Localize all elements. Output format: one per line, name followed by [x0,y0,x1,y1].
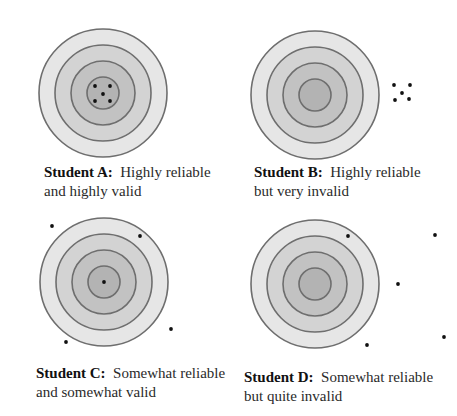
shot-dot [50,224,54,228]
shot-dot [433,233,437,237]
caption-student-a: Student A: Highly reliable and highly va… [44,163,211,201]
caption-label: Student A: [44,164,113,180]
shot-dot [365,343,369,347]
shot-dot [102,280,106,284]
shot-dot [64,340,68,344]
shot-dot [138,234,142,238]
shot-dot [393,98,397,102]
shot-dot [108,99,112,103]
caption-label: Student C: [36,365,106,381]
shot-dot [101,92,105,96]
shot-dot [392,83,396,87]
shot-dot [108,84,112,88]
shot-dot [346,234,350,238]
caption-student-b: Student B: Highly reliable but very inva… [254,163,421,201]
shot-dot [93,99,97,103]
caption-line1: Highly reliable [120,164,210,180]
shot-dot [93,84,97,88]
caption-line2: but very invalid [254,183,349,199]
caption-line1: Highly reliable [330,164,420,180]
target-b [251,31,412,159]
shot-dot [396,282,400,286]
caption-student-d: Student D: Somewhat reliable but quite i… [244,368,433,406]
caption-line1: Somewhat reliable [321,369,433,385]
target-a [39,29,167,157]
shot-dot [169,327,173,331]
shot-dot [442,335,446,339]
shot-dot [407,97,411,101]
shot-dot [408,83,412,87]
caption-label: Student B: [254,164,323,180]
bullseye [299,79,331,111]
bullseye [299,268,331,300]
target-c [40,218,173,346]
shot-dot [400,91,404,95]
caption-line2: but quite invalid [244,388,342,404]
caption-line1: Somewhat reliable [113,365,225,381]
target-d [251,220,446,348]
reliability-validity-diagram [0,0,457,416]
caption-line2: and somewhat valid [36,384,156,400]
caption-student-c: Student C: Somewhat reliable and somewha… [36,364,225,402]
caption-line2: and highly valid [44,183,142,199]
caption-label: Student D: [244,369,314,385]
